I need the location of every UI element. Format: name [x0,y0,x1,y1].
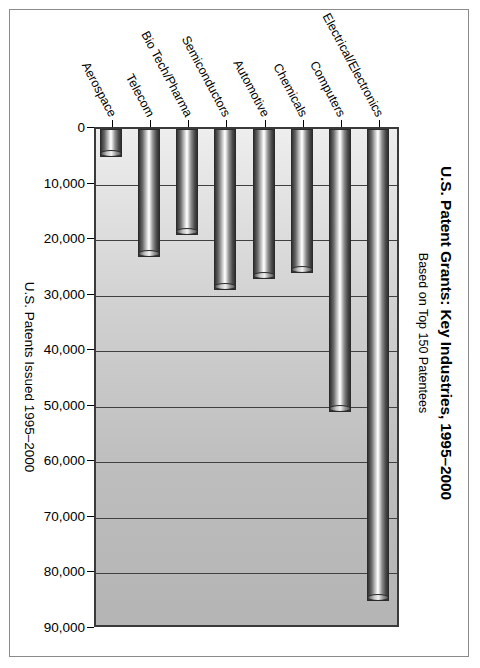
gridline [96,296,397,297]
category-axis-tick [188,120,189,127]
bar [291,129,313,273]
value-axis-tick [87,627,94,628]
category-axis-tick [150,120,151,127]
value-axis-tick [87,405,94,406]
category-label-text: Automotive [230,58,272,120]
gridline [96,407,397,408]
category-label-text: Chemicals [270,61,310,119]
gridline [96,462,397,463]
category-axis-tick [303,120,304,127]
bar [253,129,275,279]
value-axis-tick [87,238,94,239]
tick-label-text: 70,000 [44,508,85,523]
bar [214,129,236,290]
tick-label-text: 30,000 [44,286,85,301]
bar-end-cap [100,150,122,157]
rotated-figure-stage: U.S. Patent Grants: Key Industries, 1995… [9,9,469,657]
gridline [96,351,397,352]
category-label-text: Telecom [123,72,157,120]
tick-label-text: 60,000 [44,453,85,468]
bar-chart-figure: U.S. Patent Grants: Key Industries, 1995… [9,9,469,657]
tick-label-text: 0 [77,120,85,135]
value-axis-tick [87,349,94,350]
bar [100,129,122,157]
tick-label-text: 20,000 [44,231,85,246]
bar-end-cap [138,250,160,257]
chart-subtitle: Based on Top 150 Patentees [416,9,430,657]
value-axis-tick [87,516,94,517]
category-axis-tick [379,120,380,127]
bar-end-cap [253,272,275,279]
chart-title: U.S. Patent Grants: Key Industries, 1995… [437,9,455,657]
value-axis-tick [87,127,94,128]
bar [329,129,351,412]
category-label-text: Aerospace [79,60,119,119]
bar [367,129,389,601]
value-axis-title: U.S. Patents Issued 1995–2000 [22,127,37,627]
tick-label-text: 80,000 [44,564,85,579]
value-axis-tick [87,571,94,572]
gridline [96,573,397,574]
bar-end-cap [329,405,351,412]
value-axis [93,127,94,627]
tick-label-text: 90,000 [44,620,85,635]
bar-end-cap [214,283,236,290]
bar-end-cap [367,594,389,601]
bar-end-cap [291,266,313,273]
value-axis-tick [87,294,94,295]
tick-label-text: 40,000 [44,342,85,357]
plot-area [94,127,399,627]
value-axis-tick [87,460,94,461]
bar [138,129,160,257]
bar-end-cap [176,228,198,235]
category-axis-tick [226,120,227,127]
chart-page: U.S. Patent Grants: Key Industries, 1995… [0,0,480,668]
category-axis-tick [112,120,113,127]
value-axis-tick [87,183,94,184]
tick-label-text: 10,000 [44,175,85,190]
gridline [96,518,397,519]
category-label-text: Computers [307,59,348,120]
category-axis-tick [341,120,342,127]
category-axis-tick [265,120,266,127]
tick-label-text: 50,000 [44,397,85,412]
bar [176,129,198,235]
